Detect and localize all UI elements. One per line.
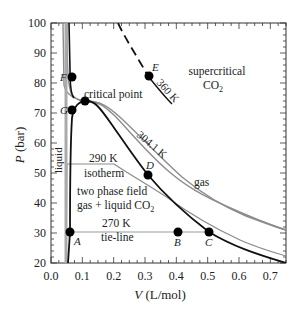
label-gas-liquid-co2: gas + liquid CO2 xyxy=(77,199,154,214)
point-G xyxy=(68,106,77,115)
x-tick-label: 0.4 xyxy=(169,269,184,283)
y-tick-label: 100 xyxy=(28,16,46,30)
y-tick-label: 50 xyxy=(34,166,46,180)
y-tick-label: 20 xyxy=(34,256,46,270)
y-tick-labels: 2030405060708090100 xyxy=(28,16,46,270)
label-C: C xyxy=(205,236,213,248)
x-tick-label: 0.7 xyxy=(263,269,278,283)
pv-diagram-chart: 2030405060708090100 0.00.10.20.30.40.50.… xyxy=(0,0,302,318)
point-D xyxy=(144,171,153,180)
isotherm-360K xyxy=(118,23,148,76)
y-axis-label: P (bar) xyxy=(12,127,27,164)
label-tie-line: tie-line xyxy=(101,231,134,243)
label-two-phase-field: two phase field xyxy=(77,185,148,198)
x-tick-label: 0.0 xyxy=(44,269,59,283)
label-A: A xyxy=(73,235,81,247)
label-gas: gas xyxy=(194,176,210,189)
x-tick-label: 0.6 xyxy=(232,269,247,283)
x-tick-label: 0.3 xyxy=(138,269,153,283)
label-B: B xyxy=(174,236,181,248)
y-tick-label: 70 xyxy=(34,106,46,120)
x-tick-label: 0.1 xyxy=(75,269,90,283)
axis-ticks xyxy=(51,23,286,263)
x-tick-label: 0.2 xyxy=(106,269,121,283)
label-270K: 270 K xyxy=(102,217,131,229)
plot-frame xyxy=(51,23,286,263)
y-tick-label: 30 xyxy=(34,226,46,240)
label-isotherm: isotherm xyxy=(84,167,124,179)
label-E: E xyxy=(151,61,159,73)
supercritical-co2-label: CO2 xyxy=(203,79,223,94)
label-liquid: liquid xyxy=(52,147,64,173)
label-D: D xyxy=(145,159,154,171)
critical-point-label: critical point xyxy=(84,88,143,101)
label-290K: 290 K xyxy=(89,152,118,164)
label-F: F xyxy=(59,71,67,83)
supercritical-label: supercritical xyxy=(189,65,246,78)
y-tick-label: 60 xyxy=(34,136,46,150)
x-axis-label: V (L/mol) xyxy=(134,287,186,302)
y-tick-label: 90 xyxy=(34,46,46,60)
label-G: G xyxy=(60,104,68,116)
y-tick-label: 40 xyxy=(34,196,46,210)
x-tick-labels: 0.00.10.20.30.40.50.60.7 xyxy=(44,269,278,283)
point-F xyxy=(68,73,77,82)
y-tick-label: 80 xyxy=(34,76,46,90)
x-tick-label: 0.5 xyxy=(200,269,215,283)
